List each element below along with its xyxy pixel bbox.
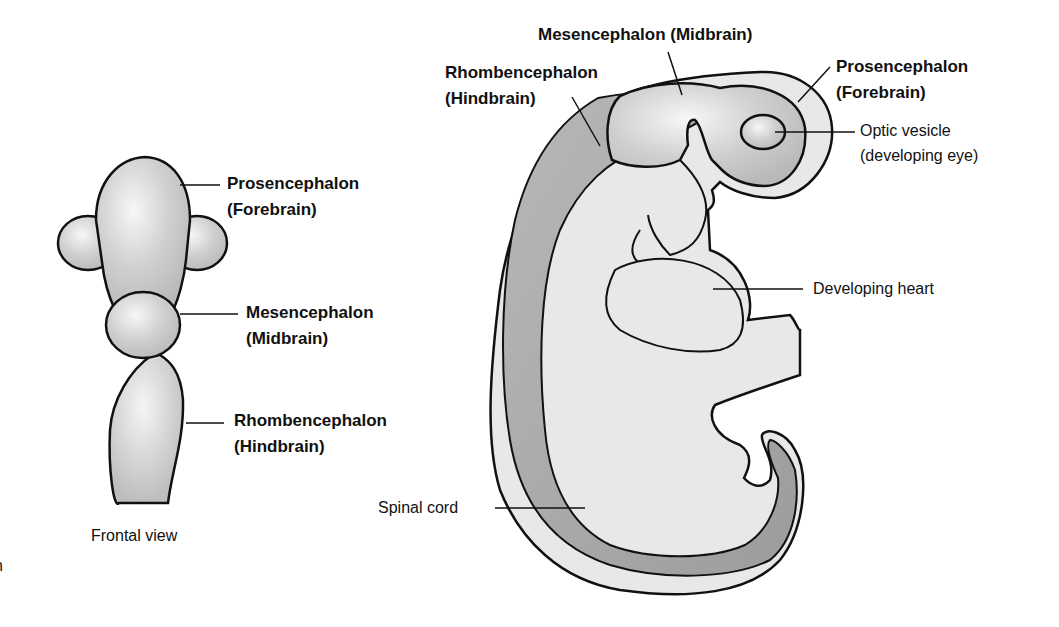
- lateral-rhombencephalon-common: (Hindbrain): [445, 89, 598, 109]
- lateral-view-embryo: [491, 72, 833, 594]
- edge-text-fragment: n: [0, 556, 3, 576]
- lateral-prosencephalon-name: Prosencephalon: [836, 57, 968, 77]
- frontal-rhombencephalon-name: Rhombencephalon: [234, 411, 387, 431]
- frontal-mesencephalon-label: Mesencephalon (Midbrain): [246, 303, 374, 349]
- frontal-prosencephalon-name: Prosencephalon: [227, 174, 359, 194]
- lateral-rhombencephalon-name: Rhombencephalon: [445, 63, 598, 83]
- frontal-mesencephalon-name: Mesencephalon: [246, 303, 374, 323]
- frontal-prosencephalon-label: Prosencephalon (Forebrain): [227, 174, 359, 220]
- frontal-view-caption: Frontal view: [91, 526, 177, 546]
- frontal-view-brain: [58, 157, 227, 504]
- lateral-rhombencephalon-label: Rhombencephalon (Hindbrain): [445, 63, 598, 109]
- optic-vesicle-name: Optic vesicle: [860, 121, 978, 141]
- frontal-rhombencephalon-label: Rhombencephalon (Hindbrain): [234, 411, 387, 457]
- lateral-prosencephalon-common: (Forebrain): [836, 83, 968, 103]
- optic-vesicle-note: (developing eye): [860, 146, 978, 166]
- optic-vesicle-label: Optic vesicle (developing eye): [860, 121, 978, 166]
- lateral-prosencephalon-label: Prosencephalon (Forebrain): [836, 57, 968, 103]
- developing-heart-label: Developing heart: [813, 279, 934, 299]
- frontal-mesencephalon-common: (Midbrain): [246, 329, 374, 349]
- lateral-mesencephalon-label: Mesencephalon (Midbrain): [538, 25, 752, 45]
- frontal-prosencephalon-common: (Forebrain): [227, 200, 359, 220]
- spinal-cord-label: Spinal cord: [378, 498, 458, 518]
- frontal-rhombencephalon-common: (Hindbrain): [234, 437, 387, 457]
